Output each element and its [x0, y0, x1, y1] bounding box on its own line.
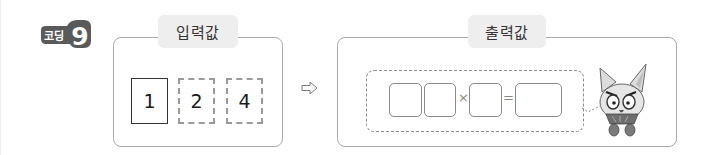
- input-panel-title: 입력값: [158, 15, 238, 48]
- answer-box-2[interactable]: [424, 83, 456, 117]
- input-card-1: 1: [131, 78, 168, 124]
- answer-box-1[interactable]: [389, 83, 422, 117]
- fox-robot-mascot-icon: [592, 62, 654, 138]
- answer-box-3[interactable]: [469, 83, 502, 117]
- equals-operator: =: [503, 90, 514, 105]
- badge-label: 코딩: [44, 29, 64, 43]
- input-card-3: 4: [226, 78, 263, 124]
- multiply-operator: ×: [458, 90, 469, 105]
- answer-box-4[interactable]: [515, 83, 562, 117]
- page-edge-rule: [0, 0, 1, 155]
- badge-number: 9: [71, 22, 88, 49]
- coding-badge: 코딩 9: [37, 19, 95, 49]
- output-panel-title: 출력값: [468, 15, 546, 48]
- right-arrow-icon: [301, 80, 319, 94]
- input-card-2: 2: [178, 78, 215, 124]
